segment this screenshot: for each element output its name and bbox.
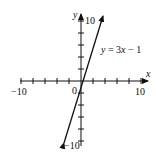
origin-label: 0 [72,85,77,96]
y-max-label: 10 [85,15,95,26]
x-axis-label: x [145,68,151,79]
coordinate-plane: y 10 −10 x −10 10 0 y = 3x − 1 [0,0,156,160]
y-axis-label: y [72,9,78,20]
line-y-equals-3x-minus-1 [64,16,103,143]
equation-label: y = 3x − 1 [100,44,141,55]
x-max-label: 10 [135,86,145,97]
x-min-label: −10 [11,86,27,97]
y-min-label: −10 [64,140,80,151]
